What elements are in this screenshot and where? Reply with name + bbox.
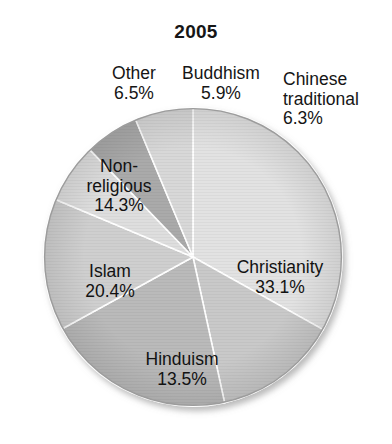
- slice-label-non-religious-name2: religious: [70, 177, 168, 197]
- slice-label-islam-name: Islam: [62, 262, 158, 282]
- slice-label-christianity: Christianity 33.1%: [219, 258, 341, 297]
- slice-label-christianity-value: 33.1%: [219, 278, 341, 298]
- slice-label-other: Other 6.5%: [88, 64, 180, 103]
- slice-label-other-value: 6.5%: [88, 84, 180, 104]
- slice-label-buddhism: Buddhism 5.9%: [172, 64, 270, 103]
- slice-label-hinduism-name: Hinduism: [124, 350, 240, 370]
- slice-label-chinese-traditional: Chinese traditional 6.3%: [283, 70, 359, 129]
- slice-label-non-religious: Non- religious 14.3%: [70, 157, 168, 216]
- slice-label-christianity-name: Christianity: [219, 258, 341, 278]
- slice-label-islam-value: 20.4%: [62, 282, 158, 302]
- slice-label-chinese-traditional-name2: traditional: [283, 90, 359, 110]
- slice-label-non-religious-value: 14.3%: [70, 196, 168, 216]
- slice-label-hinduism-value: 13.5%: [124, 370, 240, 390]
- slice-label-chinese-traditional-value: 6.3%: [283, 109, 359, 129]
- slice-label-hinduism: Hinduism 13.5%: [124, 350, 240, 389]
- slice-label-islam: Islam 20.4%: [62, 262, 158, 301]
- slice-label-non-religious-name1: Non-: [70, 157, 168, 177]
- pie-chart-figure: 2005 Other 6.5% Buddhism: [0, 0, 392, 444]
- slice-label-chinese-traditional-name1: Chinese: [283, 70, 359, 90]
- slice-label-other-name: Other: [88, 64, 180, 84]
- slice-label-buddhism-name: Buddhism: [172, 64, 270, 84]
- slice-label-buddhism-value: 5.9%: [172, 84, 270, 104]
